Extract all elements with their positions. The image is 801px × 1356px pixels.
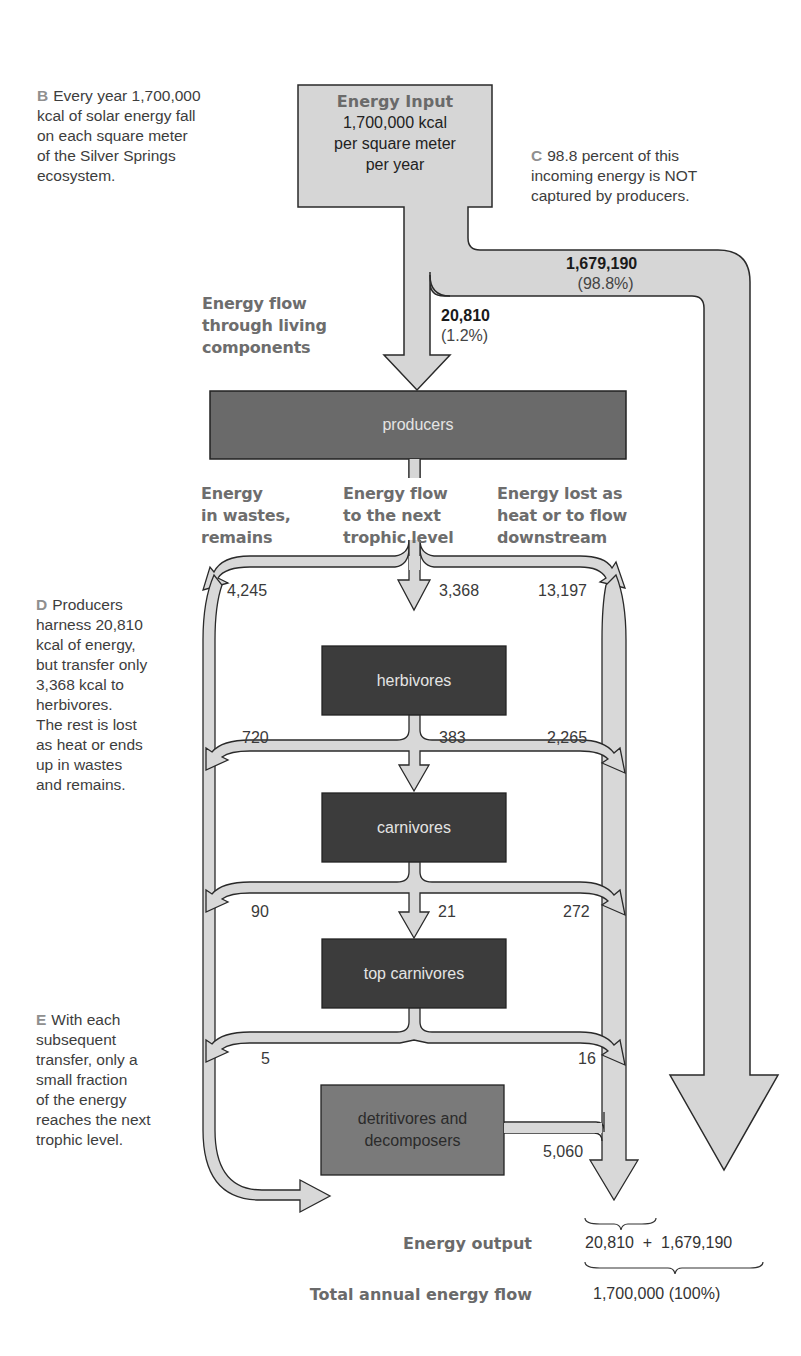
note-e: EWith each subsequent transfer, only a s… [36, 1010, 206, 1150]
wastes-top-carnivores: 5 [261, 1050, 270, 1068]
brace-total [585, 1262, 763, 1274]
total-flow-label: Total annual energy flow [232, 1285, 532, 1304]
herbivores-label: herbivores [322, 646, 506, 715]
lost-carnivores: 272 [563, 903, 590, 921]
transfer-to-top-carnivores: 21 [438, 903, 456, 921]
carnivores-label: carnivores [322, 793, 506, 862]
top-carnivores-label: top carnivores [322, 939, 506, 1008]
note-d: DProducers harness 20,810 kcal of energy… [36, 595, 206, 795]
note-b: BEvery year 1,700,000 kcal of solar ener… [37, 86, 267, 186]
header-wastes: Energy in wastes, remains [201, 483, 291, 549]
living-flow-header: Energy flow through living components [202, 293, 327, 359]
decomposers-label: detritivores and decomposers [321, 1085, 504, 1175]
energy-input-box: Energy Input 1,700,000 kcal per square m… [298, 91, 492, 175]
transfer-to-herbivores: 3,368 [439, 582, 479, 600]
brace-living [585, 1218, 656, 1230]
transfer-to-carnivores: 383 [439, 729, 466, 747]
total-flow-value: 1,700,000 (100%) [593, 1285, 720, 1303]
wastes-herbivores: 720 [242, 729, 269, 747]
header-next-level: Energy flow to the next trophic level [343, 483, 453, 549]
wastes-carnivores: 90 [251, 903, 269, 921]
lost-top-carnivores: 16 [578, 1050, 596, 1068]
energy-output-label: Energy output [330, 1234, 532, 1253]
lost-herbivores: 2,265 [547, 729, 587, 747]
energy-output-value: 20,810 + 1,679,190 [585, 1234, 732, 1252]
note-c: C98.8 percent of this incoming energy is… [531, 146, 771, 206]
wastes-producers: 4,245 [227, 582, 267, 600]
header-lost: Energy lost as heat or to flow downstrea… [497, 483, 627, 549]
lost-producers: 13,197 [538, 582, 587, 600]
producers-label: producers [210, 391, 626, 459]
not-captured-value: 1,679,190 (98.8%) [566, 254, 637, 294]
decomposers-output: 5,060 [543, 1143, 583, 1161]
captured-value: 20,810 (1.2%) [441, 306, 490, 346]
